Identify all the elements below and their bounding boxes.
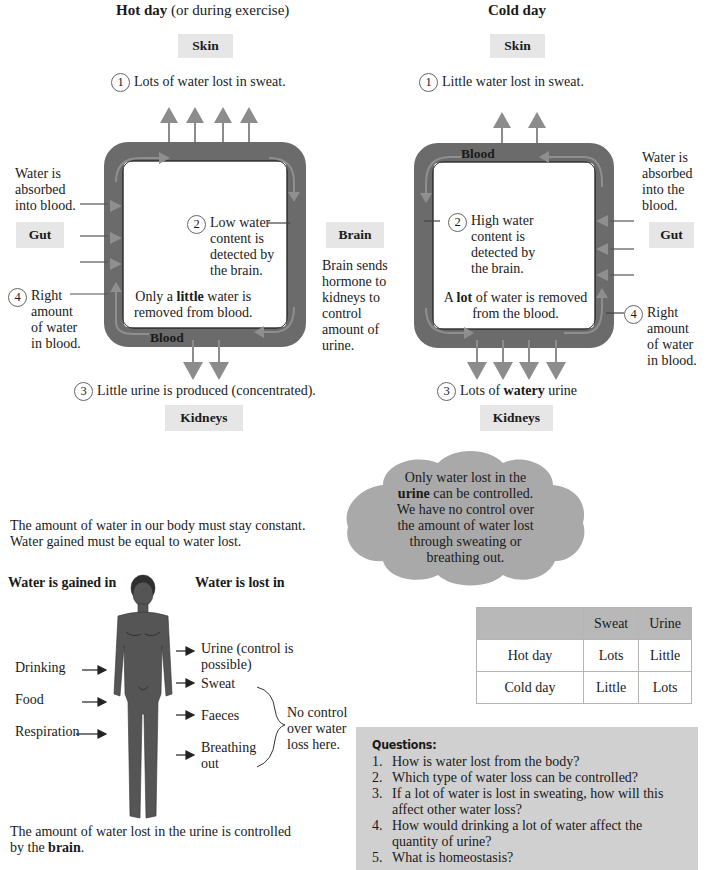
gained-drinking: Drinking [15,660,66,676]
footer-end: . [81,840,85,855]
step-number-4: 4 [8,288,27,307]
question-text: How would drinking a lot of water affect… [392,818,642,833]
hot-step4-line: of water [31,320,81,336]
table-cell: Lots [584,640,639,672]
hot-removed-post: water is [204,289,251,304]
step-number-2: 2 [448,213,467,232]
step-number-2: 2 [187,215,206,234]
question-number: 4. [372,818,392,850]
hot-day-title: Hot day (or during exercise) [116,2,289,19]
cold-gut-note-line: into the [642,182,693,198]
cold-gut-note-line: absorbed [642,166,693,182]
hot-day-title-bold: Hot day [116,2,167,18]
hot-step4-line: Right [31,288,81,304]
cold-urine-arrows [465,340,575,382]
hot-sweat-arrows [150,105,280,145]
brain-note-line: kidneys to [322,290,388,306]
table-cell: Hot day [477,640,584,672]
hot-step3: 3Little urine is produced (concentrated)… [74,382,316,401]
gained-heading: Water is gained in [8,575,116,591]
brain-note: Brain sends hormone to kidneys to contro… [322,258,388,354]
human-figure-icon [108,574,178,822]
cloud-bold: urine [398,486,430,501]
brace-icon [255,685,290,770]
balance-line: The amount of water in our body must sta… [10,518,306,534]
cloud-line: the amount of water lost [378,518,553,534]
question-item: 5.What is homeostasis? [372,850,684,866]
cold-step3: 3Lots of watery urine [437,382,577,401]
table-cell: Cold day [477,672,584,704]
questions-title: Questions: [372,737,637,752]
cold-removed-pre: A [444,290,457,305]
hot-step2-line: the brain. [210,263,274,279]
step-number-1: 1 [111,73,130,92]
table-header-row: Sweat Urine [477,608,692,640]
brain-control-footer: The amount of water lost in the urine is… [10,824,291,856]
cold-step1-text: Little water lost in sweat. [442,74,584,89]
brain-label: Brain [326,222,384,248]
hot-step2-line: detected by [210,247,274,263]
hot-step2-line: Low water [210,215,274,231]
cloud-text: Only water lost in the urine can be cont… [378,470,553,566]
table-row: Cold day Little Lots [477,672,692,704]
table-header-cell: Sweat [584,608,639,640]
lost-heading: Water is lost in [195,575,285,591]
hot-step4-line: amount [31,304,81,320]
cold-gut-arrows [604,219,634,319]
hot-step2: 2 Low water content is detected by the b… [187,215,274,279]
cold-gut-note-line: Water is [642,150,693,166]
cold-gut-note-line: blood. [642,198,693,214]
gained-food: Food [15,692,44,708]
cold-step4-line: of water [647,337,697,353]
brain-note-line: Brain sends [322,258,388,274]
hot-blood-label: Blood [150,330,184,346]
footer-bold: brain [48,840,81,855]
footer-pre: by the [10,840,48,855]
lost-urine: Urine (control is possible) [201,641,294,673]
questions-list: 1.How is water lost from the body? 2.Whi… [372,754,684,866]
no-control-line: No control [287,705,347,721]
table-cell: Little [639,640,692,672]
gained-respiration: Respiration [15,724,80,740]
hot-removed-line2: removed from blood. [134,305,253,321]
hot-gut-note-line: Water is [15,166,76,182]
lost-faeces: Faeces [201,708,239,724]
table-cell: Little [584,672,639,704]
cold-step2: 2 High water content is detected by the … [448,213,535,277]
cold-day-title: Cold day [488,2,546,19]
step-number-1: 1 [419,73,438,92]
hot-step1-text: Lots of water lost in sweat. [134,74,286,89]
cold-gut-note: Water is absorbed into the blood. [642,150,693,214]
question-item: 1.How is water lost from the body? [372,754,684,770]
cold-step3-bold: watery [504,383,545,398]
cold-removed-text: A lot of water is removed from the blood… [438,290,593,322]
question-item: 3.If a lot of water is lost in sweating,… [372,786,684,818]
hot-step3-text: Little urine is produced (concentrated). [97,383,316,398]
cold-kidneys-label: Kidneys [480,405,553,431]
hot-step4-line: in blood. [31,336,81,352]
cold-gut-label: Gut [649,222,694,248]
hot-urine-arrows [180,340,240,382]
lost-breathing-line: out [201,756,256,772]
brain-note-line: control [322,306,388,322]
balance-text: The amount of water in our body must sta… [10,518,306,550]
table-header-cell [477,608,584,640]
lost-arrows [172,645,202,775]
question-text: How is water lost from the body? [392,754,579,770]
cold-step4-line: Right [647,305,697,321]
cloud-line: Only water lost in the [378,470,553,486]
question-number: 2. [372,770,392,786]
question-text: affect other water loss? [392,802,522,817]
no-control-line: loss here. [287,737,347,753]
cloud-line: We have no control over [378,502,553,518]
brain-note-line: urine. [322,338,388,354]
hot-kidneys-label: Kidneys [165,405,243,431]
table-row: Hot day Lots Little [477,640,692,672]
step-number-3: 3 [437,382,456,401]
question-text: quantity of urine? [392,834,492,849]
gained-arrows [80,664,110,744]
brain-note-line: hormone to [322,274,388,290]
balance-line: Water gained must be equal to water lost… [10,534,306,550]
step-number-3: 3 [74,382,93,401]
cold-step2-line: High water [471,213,535,229]
